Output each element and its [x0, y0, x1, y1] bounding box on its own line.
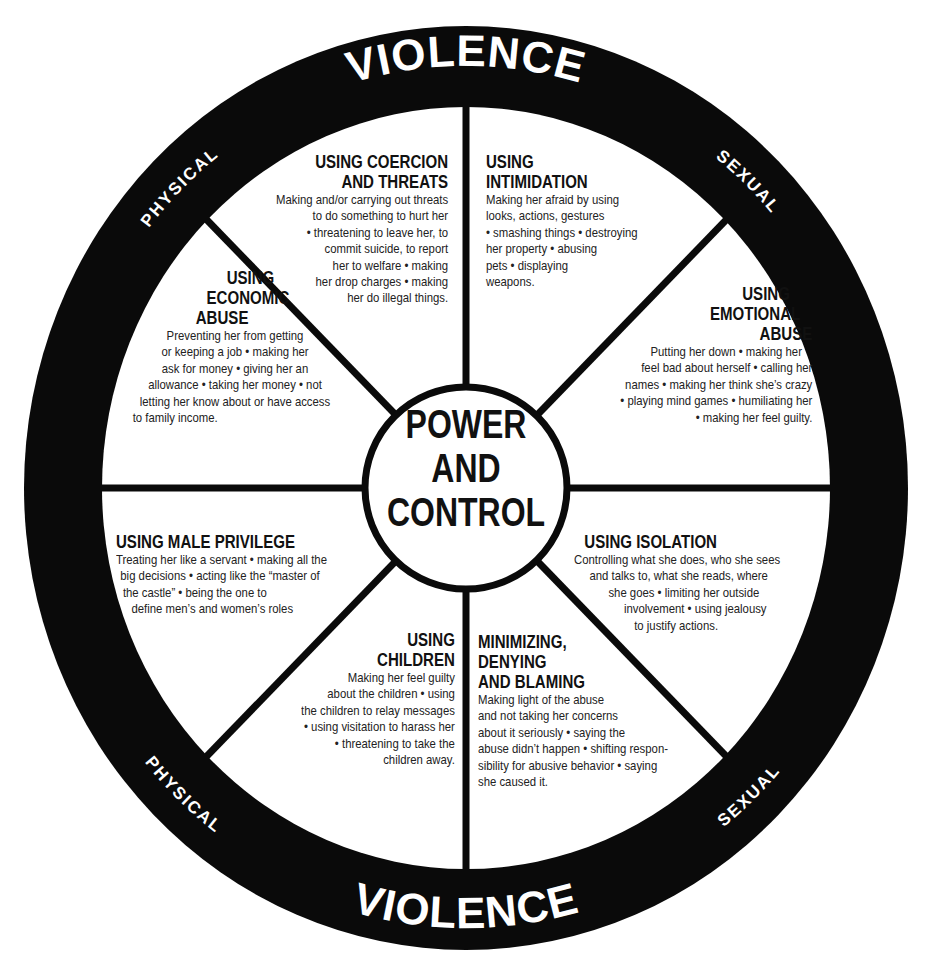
center-line: CONTROL — [386, 490, 546, 534]
section-title: AND THREATS — [276, 172, 448, 192]
section-text: • playing mind games • humiliating her — [620, 393, 812, 409]
section-title: MINIMIZING, — [478, 632, 668, 652]
center-line: POWER — [386, 402, 546, 446]
section-text: Controlling what she does, who she sees — [574, 552, 780, 568]
section-text: pets • displaying — [486, 258, 638, 274]
section-text: • making her feel guilty. — [620, 410, 812, 426]
section-text: Making her afraid by using — [486, 192, 638, 208]
section-title: INTIMIDATION — [486, 172, 638, 192]
section-text: names • making her think she’s crazy — [620, 377, 812, 393]
section-text: she goes • limiting her outside — [574, 585, 780, 601]
section-text: Treating her like a servant • making all… — [116, 552, 327, 568]
section-text: and talks to, what she reads, where — [574, 568, 780, 584]
section-text: Making her feel guilty — [301, 670, 455, 686]
section-emotional-abuse: USING EMOTIONAL ABUSE Putting her down •… — [589, 284, 812, 426]
section-text: allowance • taking her money • not — [128, 377, 343, 393]
section-text: abuse didn’t happen • shifting respon- — [478, 741, 668, 757]
section-title: USING MALE PRIVILEGE — [116, 532, 327, 552]
section-title: USING ISOLATION — [574, 532, 780, 552]
section-text: and not taking her concerns — [478, 708, 668, 724]
section-text: • threatening to take the — [301, 736, 455, 752]
section-title: ABUSE — [128, 308, 343, 328]
section-text: looks, actions, gestures — [486, 208, 638, 224]
section-title: AND BLAMING — [478, 672, 668, 692]
center-line: AND — [386, 446, 546, 490]
section-title: USING — [486, 152, 638, 172]
section-title: ECONOMIC — [128, 288, 343, 308]
section-text: the castle” • being the one to — [116, 585, 327, 601]
section-title: USING — [620, 284, 812, 304]
section-title: USING — [128, 268, 343, 288]
section-text: • threatening to leave her, to — [276, 225, 448, 241]
section-text: about the children • using — [301, 686, 455, 702]
center-label: POWER AND CONTROL — [386, 402, 546, 534]
section-text: children away. — [301, 752, 455, 768]
section-title: CHILDREN — [301, 650, 455, 670]
section-title: DENYING — [478, 652, 668, 672]
section-text: the children to relay messages — [301, 703, 455, 719]
section-text: define men’s and women’s roles — [116, 601, 327, 617]
section-children: USING CHILDREN Making her feel guilty ab… — [276, 630, 455, 768]
section-text: Putting her down • making her — [620, 344, 812, 360]
section-text: Making and/or carrying out threats — [276, 192, 448, 208]
section-intimidation: USING INTIMIDATION Making her afraid by … — [486, 152, 662, 290]
section-title: USING COERCION — [276, 152, 448, 172]
section-text: • using visitation to harass her — [301, 719, 455, 735]
section-title: USING — [301, 630, 455, 650]
section-economic-abuse: USING ECONOMIC ABUSE Preventing her from… — [110, 268, 360, 426]
section-title: ABUSE — [620, 324, 812, 344]
section-text: sibility for abusive behavior • saying — [478, 758, 668, 774]
section-minimizing-denying-blaming: MINIMIZING, DENYING AND BLAMING Making l… — [478, 632, 699, 790]
section-text: Making light of the abuse — [478, 692, 668, 708]
section-male-privilege: USING MALE PRIVILEGE Treating her like a… — [116, 532, 361, 618]
section-text: commit suicide, to report — [276, 241, 448, 257]
section-text: or keeping a job • making her — [128, 344, 343, 360]
section-text: feel bad about herself • calling her — [620, 360, 812, 376]
section-text: to family income. — [128, 410, 343, 426]
section-title: EMOTIONAL — [620, 304, 812, 324]
section-text: her property • abusing — [486, 241, 638, 257]
section-text: big decisions • acting like the “master … — [116, 568, 327, 584]
section-text: ask for money • giving her an — [128, 361, 343, 377]
section-text: she caused it. — [478, 774, 668, 790]
section-text: to do something to hurt her — [276, 208, 448, 224]
section-text: letting her know about or have access — [128, 394, 343, 410]
section-text: about it seriously • saying the — [478, 725, 668, 741]
section-isolation: USING ISOLATION Controlling what she doe… — [574, 532, 814, 634]
section-text: involvement • using jealousy — [574, 601, 780, 617]
section-text: • smashing things • destroying — [486, 225, 638, 241]
section-text: Preventing her from getting — [128, 328, 343, 344]
